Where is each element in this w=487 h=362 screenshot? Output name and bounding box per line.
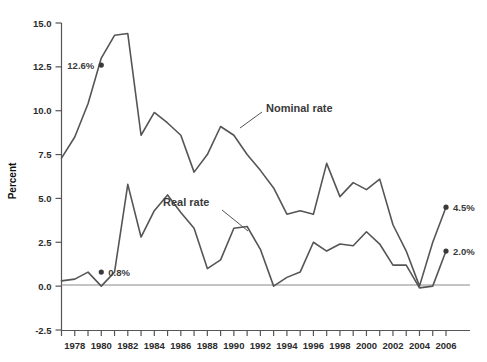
x-tick-label: 1984 xyxy=(144,340,166,351)
annotation-2.0-percent: 2.0% xyxy=(453,246,475,257)
marker-2.0-percent xyxy=(443,248,448,253)
x-tick-label: 1990 xyxy=(223,340,244,351)
x-tick-label: 1994 xyxy=(276,340,298,351)
y-tick-label: 10.0 xyxy=(33,105,52,116)
y-tick-label: 0.0 xyxy=(38,281,51,292)
x-tick-label: 2002 xyxy=(382,340,403,351)
x-tick-label: 2000 xyxy=(356,340,377,351)
y-tick-label: -2.5 xyxy=(35,325,52,336)
x-tick-label: 2004 xyxy=(409,340,431,351)
x-tick-label: 1986 xyxy=(170,340,191,351)
annotation-4.5-percent: 4.5% xyxy=(453,202,475,213)
marker-0.8-percent xyxy=(99,270,104,275)
y-tick-label: 15.0 xyxy=(33,18,52,29)
x-tick-label: 1998 xyxy=(329,340,350,351)
marker-12.6-percent xyxy=(99,63,104,68)
x-tick-label: 1992 xyxy=(250,340,271,351)
y-tick-label: 7.5 xyxy=(38,149,52,160)
x-tick-label: 1996 xyxy=(303,340,324,351)
x-axis-tick-labels: 1978198019821984198619881990199219941996… xyxy=(64,340,456,351)
marker-4.5-percent xyxy=(443,205,448,210)
chart-background xyxy=(0,0,487,362)
real-rate-label: Real rate xyxy=(163,196,209,208)
x-tick-label: 1988 xyxy=(197,340,218,351)
x-tick-label: 1980 xyxy=(91,340,112,351)
nominal-rate-label: Nominal rate xyxy=(266,102,333,114)
interest-rate-line-chart: -2.50.02.55.07.510.012.515.0 19781980198… xyxy=(0,0,487,362)
x-tick-label: 2006 xyxy=(435,340,456,351)
y-tick-label: 5.0 xyxy=(38,193,51,204)
annotation-0.8-percent: 0.8% xyxy=(108,267,130,278)
y-tick-label: 12.5 xyxy=(33,61,52,72)
annotation-12.6-percent: 12.6% xyxy=(67,60,94,71)
chart-container: -2.50.02.55.07.510.012.515.0 19781980198… xyxy=(0,0,487,362)
x-tick-label: 1978 xyxy=(64,340,85,351)
y-axis-title: Percent xyxy=(7,162,18,199)
x-tick-label: 1982 xyxy=(117,340,138,351)
y-tick-label: 2.5 xyxy=(38,237,52,248)
